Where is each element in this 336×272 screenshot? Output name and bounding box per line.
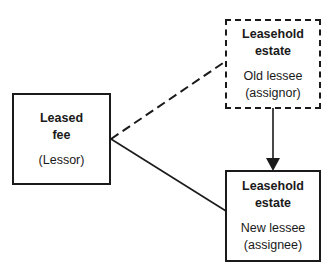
old-lessee-role-2: (assignor) [245, 85, 301, 102]
leased-fee-box: Leased fee (Lessor) [12, 93, 111, 185]
new-lessee-title-2: estate [255, 195, 291, 212]
new-lessee-role-2: (assignee) [244, 237, 302, 254]
new-lessee-title-1: Leasehold [242, 178, 304, 195]
solid-edge-fee-to-new-lessee [111, 139, 226, 211]
old-lessee-title-1: Leasehold [242, 26, 304, 43]
dashed-edge-fee-to-old-lessee [111, 61, 226, 139]
new-lessee-box: Leasehold estate New lessee (assignee) [225, 170, 321, 262]
old-lessee-role-1: Old lessee [243, 68, 302, 85]
old-lessee-box: Leasehold estate Old lessee (assignor) [225, 19, 321, 109]
leased-fee-role: (Lessor) [39, 152, 85, 169]
leased-fee-title-1: Leased [40, 110, 83, 127]
old-lessee-title-2: estate [255, 43, 291, 60]
new-lessee-role-1: New lessee [241, 220, 306, 237]
leased-fee-title-2: fee [52, 127, 70, 144]
